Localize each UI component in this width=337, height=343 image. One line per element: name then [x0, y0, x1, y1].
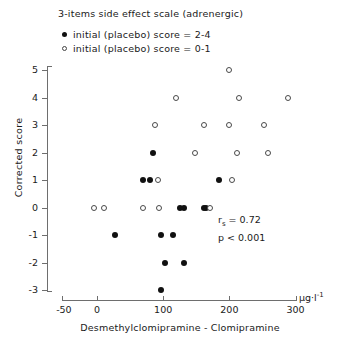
- data-point-open: [155, 177, 161, 183]
- x-tick-label: 0: [77, 305, 117, 315]
- y-axis-line: [47, 66, 48, 291]
- y-axis-cap-bottom: [47, 291, 52, 292]
- x-axis-cap-left: [62, 296, 63, 301]
- y-tick: [42, 153, 47, 154]
- correlation-value: = 0.72: [229, 214, 261, 225]
- data-point-filled: [162, 260, 168, 266]
- x-axis-cap-right: [296, 296, 297, 301]
- x-tick: [163, 296, 164, 301]
- data-point-filled: [216, 177, 222, 183]
- open-circle-icon: [58, 46, 70, 51]
- data-point-filled: [140, 177, 146, 183]
- legend-item-open: initial (placebo) score = 0-1: [58, 41, 211, 55]
- x-tick-label: 300: [276, 305, 316, 315]
- filled-circle-icon: [58, 32, 70, 37]
- statistics-annotation: rs = 0.72 p < 0.001: [218, 213, 265, 244]
- data-point-open: [101, 205, 107, 211]
- y-tick-label: -2: [12, 258, 38, 268]
- legend-item-label: initial (placebo) score = 0-1: [70, 43, 211, 54]
- x-tick: [97, 296, 98, 301]
- correlation-line: rs = 0.72: [218, 213, 265, 231]
- data-point-open: [229, 177, 235, 183]
- data-point-open: [152, 122, 158, 128]
- x-axis-title: Desmethylclomipramine - Clomipramine: [45, 322, 315, 333]
- data-point-open: [226, 67, 232, 73]
- y-tick-label: 5: [12, 65, 38, 75]
- data-point-open: [285, 95, 291, 101]
- data-point-open: [226, 122, 232, 128]
- data-point-filled: [150, 150, 156, 156]
- data-point-filled: [158, 287, 164, 293]
- legend-item-filled: initial (placebo) score = 2-4: [58, 27, 211, 41]
- data-point-open: [156, 205, 162, 211]
- y-tick: [42, 208, 47, 209]
- y-tick: [42, 125, 47, 126]
- y-axis-cap-top: [47, 66, 52, 67]
- data-point-filled: [181, 205, 187, 211]
- y-tick: [42, 290, 47, 291]
- data-point-open: [91, 205, 97, 211]
- y-tick: [42, 98, 47, 99]
- x-tick-label: 200: [209, 305, 249, 315]
- scatter-plot-figure: 3-items side effect scale (adrenergic) i…: [0, 0, 337, 343]
- data-point-filled: [158, 232, 164, 238]
- x-tick: [229, 296, 230, 301]
- x-axis-unit-exponent: -1: [317, 291, 324, 299]
- data-point-filled: [147, 177, 153, 183]
- data-point-open: [173, 95, 179, 101]
- x-tick-label: 100: [143, 305, 183, 315]
- y-tick: [42, 235, 47, 236]
- data-point-open: [236, 95, 242, 101]
- data-point-open: [261, 122, 267, 128]
- y-tick-label: -1: [12, 230, 38, 240]
- y-tick-label: 4: [12, 93, 38, 103]
- data-point-open: [234, 150, 240, 156]
- data-point-open: [201, 122, 207, 128]
- data-point-open: [192, 150, 198, 156]
- y-axis-title: Corrected score: [13, 108, 24, 208]
- data-point-open: [140, 205, 146, 211]
- chart-legend: initial (placebo) score = 2-4 initial (p…: [58, 27, 211, 55]
- y-tick-label: -3: [12, 285, 38, 295]
- y-tick: [42, 180, 47, 181]
- data-point-filled: [181, 260, 187, 266]
- x-axis-unit-text: µg·l: [299, 292, 317, 303]
- data-point-open: [265, 150, 271, 156]
- legend-item-label: initial (placebo) score = 2-4: [70, 29, 211, 40]
- x-axis-unit-label: µg·l-1: [299, 291, 324, 303]
- pvalue-line: p < 0.001: [218, 231, 265, 244]
- y-tick: [42, 70, 47, 71]
- data-point-open: [207, 205, 213, 211]
- data-point-filled: [112, 232, 118, 238]
- page-title: 3-items side effect scale (adrenergic): [58, 8, 243, 19]
- correlation-subscript: s: [222, 220, 226, 228]
- y-tick: [42, 263, 47, 264]
- data-point-filled: [201, 205, 207, 211]
- data-point-filled: [170, 232, 176, 238]
